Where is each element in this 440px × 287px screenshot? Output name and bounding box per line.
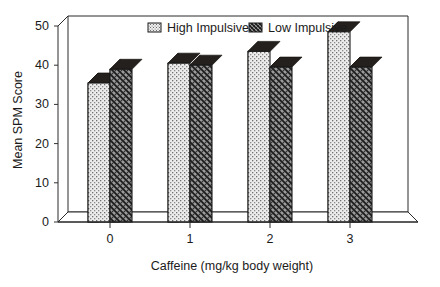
x-axis-title: Caffeine (mg/kg body weight): [151, 259, 313, 273]
bar-group-3: [328, 22, 382, 222]
legend-label-low-impulsive: Low Impulsive: [268, 21, 347, 35]
x-tick-label: 0: [107, 232, 114, 246]
y-tick-label: 0: [42, 215, 49, 229]
legend-label-high-impulsive: High Impulsive: [167, 21, 249, 35]
y-tick-label: 30: [35, 97, 49, 111]
y-tick-label: 20: [35, 137, 49, 151]
y-tick-label: 40: [35, 58, 49, 72]
x-tick-label: 1: [187, 232, 194, 246]
legend-swatch-low-impulsive: [249, 23, 262, 32]
bar-group-1: [168, 53, 222, 222]
bar-low-3: [350, 57, 382, 222]
y-tick-label: 10: [35, 176, 49, 190]
y-tick-label: 50: [35, 19, 49, 33]
legend: High Impulsive Low Impulsive: [148, 21, 347, 35]
bar-group-0: [88, 59, 142, 222]
x-tick-label: 2: [267, 232, 274, 246]
bar-low-0: [110, 59, 142, 222]
bar-low-1: [190, 55, 222, 222]
chart-canvas: 50 40 30 20 10 0 Mean SPM Score: [0, 0, 440, 287]
x-tick-label: 3: [347, 232, 354, 246]
legend-swatch-high-impulsive: [148, 23, 161, 32]
bar-chart: 50 40 30 20 10 0 Mean SPM Score: [0, 0, 440, 287]
bar-low-2: [270, 57, 302, 222]
bar-group-2: [248, 41, 302, 222]
y-axis: 50 40 30 20 10 0: [35, 19, 58, 229]
x-axis: 0 1 2 3: [107, 222, 354, 246]
y-axis-title: Mean SPM Score: [11, 71, 25, 169]
